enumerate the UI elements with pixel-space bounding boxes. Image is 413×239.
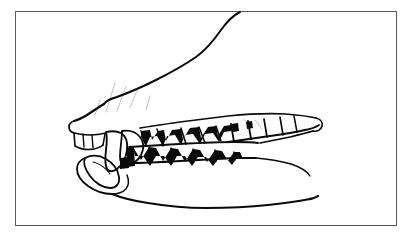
jaw-line-drawing	[0, 0, 413, 239]
lower-canine	[84, 156, 119, 188]
lower-row-front-shadow	[120, 147, 135, 169]
jaw-posterior-tip	[260, 118, 322, 143]
nose-tip	[69, 121, 74, 133]
figure-root	[0, 0, 413, 239]
upper-incisors	[74, 133, 106, 149]
upper-carnassial-molars	[228, 116, 319, 142]
mandible-ventral-outline	[112, 194, 318, 208]
mandible-body-upper-edge	[256, 158, 310, 176]
mandibular-tooth-row	[129, 142, 258, 166]
